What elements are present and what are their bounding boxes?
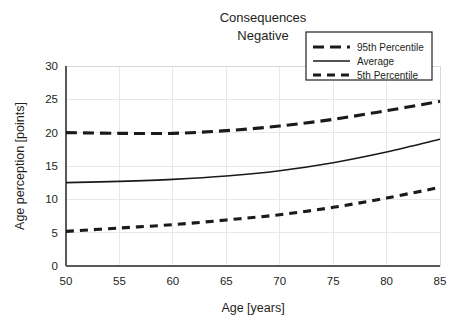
x-tick-label: 80 xyxy=(380,275,393,287)
x-axis-title: Age [years] xyxy=(221,301,284,315)
legend-label: Average xyxy=(357,56,395,67)
x-tick-label: 75 xyxy=(327,275,340,287)
y-tick-label: 5 xyxy=(52,227,58,239)
x-tick-label: 70 xyxy=(273,275,286,287)
legend: 95th PercentileAverage5th Percentile xyxy=(306,32,432,81)
legend-label: 95th Percentile xyxy=(357,42,424,53)
x-tick-label: 60 xyxy=(166,275,179,287)
page-title-line-2: Negative xyxy=(237,28,288,43)
page-title-line-1: Consequences xyxy=(220,10,307,25)
x-tick-label: 65 xyxy=(220,275,233,287)
y-tick-label: 25 xyxy=(45,93,58,105)
legend-label: 5th Percentile xyxy=(357,70,419,81)
line-chart: Consequences Negative 051015202530 50556… xyxy=(0,0,469,330)
chart-container: Consequences Negative 051015202530 50556… xyxy=(0,0,469,330)
x-tick-label: 50 xyxy=(60,275,73,287)
y-axis-title: Age perception [points] xyxy=(13,102,27,230)
y-tick-label: 15 xyxy=(45,160,58,172)
y-tick-label: 0 xyxy=(52,260,58,272)
y-tick-label: 30 xyxy=(45,60,58,72)
y-tick-label: 10 xyxy=(45,193,58,205)
x-tick-label: 55 xyxy=(113,275,126,287)
x-tick-label: 85 xyxy=(434,275,447,287)
y-tick-label: 20 xyxy=(45,127,58,139)
